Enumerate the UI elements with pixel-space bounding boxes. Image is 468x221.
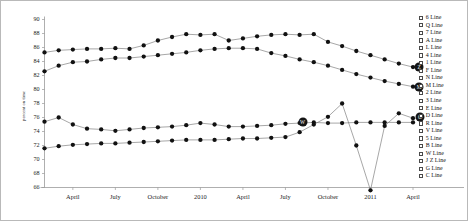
- data-point: [411, 120, 415, 124]
- legend-item-n-line[interactable]: N Line: [419, 74, 468, 82]
- legend-item-w-line[interactable]: W Line: [419, 150, 468, 158]
- data-point: [184, 50, 188, 54]
- checkbox-icon[interactable]: [419, 159, 423, 163]
- checkbox-icon[interactable]: [419, 31, 423, 35]
- y-tick-label: 86: [24, 44, 40, 50]
- checkbox-icon[interactable]: [419, 144, 423, 148]
- data-point: [99, 47, 103, 51]
- legend-panel[interactable]: 6 LineQ Line7 LineA LineL Line4 Line1 Li…: [419, 14, 468, 180]
- legend-item-b-line[interactable]: B Line: [419, 142, 468, 150]
- legend-item-r-line[interactable]: R Line: [419, 120, 468, 128]
- data-point: [326, 115, 330, 119]
- legend-item-label: 6 Line: [426, 14, 442, 22]
- legend-item-e-line[interactable]: E Line: [419, 105, 468, 113]
- data-point: [42, 69, 46, 73]
- data-point: [113, 141, 117, 145]
- data-point: [283, 54, 287, 58]
- data-point: [113, 46, 117, 50]
- checkbox-icon[interactable]: [419, 129, 423, 133]
- checkbox-icon[interactable]: [419, 114, 423, 118]
- x-tick-label: April: [66, 193, 80, 200]
- data-point: [269, 51, 273, 55]
- data-point: [255, 124, 259, 128]
- checkbox-icon[interactable]: [419, 61, 423, 65]
- series-w: [42, 115, 415, 133]
- checkbox-icon[interactable]: [419, 23, 423, 27]
- checkbox-icon[interactable]: [419, 38, 423, 42]
- legend-item-4-line[interactable]: 4 Line: [419, 52, 468, 60]
- data-point: [283, 122, 287, 126]
- data-point: [57, 115, 61, 119]
- checkbox-icon[interactable]: [419, 16, 423, 20]
- data-point: [198, 121, 202, 125]
- legend-item-6-line[interactable]: 6 Line: [419, 14, 468, 22]
- legend-item-3-line[interactable]: 3 Line: [419, 97, 468, 105]
- data-point: [212, 138, 216, 142]
- checkbox-icon[interactable]: [419, 69, 423, 73]
- checkbox-icon[interactable]: [419, 76, 423, 80]
- data-point: [397, 61, 401, 65]
- checkbox-icon[interactable]: [419, 167, 423, 171]
- legend-item-j-z-line[interactable]: J Z Line: [419, 157, 468, 165]
- data-point: [340, 68, 344, 72]
- data-point: [170, 52, 174, 56]
- legend-item-1-line[interactable]: 1 Line: [419, 59, 468, 67]
- legend-item-label: G Line: [426, 165, 443, 173]
- legend-item-label: 5 Line: [426, 135, 442, 143]
- x-tick-label: April: [406, 193, 420, 200]
- legend-item-a-line[interactable]: A Line: [419, 37, 468, 45]
- legend-item-label: F Line: [426, 67, 442, 75]
- legend-item-g-line[interactable]: G Line: [419, 165, 468, 173]
- y-tick-label: 90: [24, 16, 40, 22]
- series-line: [45, 48, 414, 86]
- checkbox-icon[interactable]: [419, 152, 423, 156]
- legend-item-2-line[interactable]: 2 Line: [419, 89, 468, 97]
- checkbox-icon[interactable]: [419, 174, 423, 178]
- data-point: [354, 49, 358, 53]
- series-z: [42, 32, 415, 69]
- checkbox-icon[interactable]: [419, 106, 423, 110]
- data-point: [127, 56, 131, 60]
- data-point: [227, 46, 231, 50]
- data-point: [85, 142, 89, 146]
- legend-item-7-line[interactable]: 7 Line: [419, 29, 468, 37]
- legend-item-c-line[interactable]: C Line: [419, 172, 468, 180]
- y-tick-label: 76: [24, 114, 40, 120]
- chart-screenshot: percent on time 908886848280787674727068…: [0, 0, 468, 221]
- y-tick-label: 82: [24, 72, 40, 78]
- data-point: [42, 50, 46, 54]
- data-point: [198, 33, 202, 37]
- data-point: [255, 34, 259, 38]
- legend-item-5-line[interactable]: 5 Line: [419, 135, 468, 143]
- checkbox-icon[interactable]: [419, 99, 423, 103]
- checkbox-icon[interactable]: [419, 53, 423, 57]
- data-point: [368, 53, 372, 57]
- checkbox-icon[interactable]: [419, 84, 423, 88]
- y-tick-label: 84: [24, 58, 40, 64]
- data-point: [42, 146, 46, 150]
- legend-item-l-line[interactable]: L Line: [419, 44, 468, 52]
- series-g: [42, 101, 415, 192]
- legend-item-label: C Line: [426, 172, 443, 180]
- checkbox-icon[interactable]: [419, 91, 423, 95]
- legend-item-f-line[interactable]: F Line: [419, 67, 468, 75]
- y-tick-label: 70: [24, 156, 40, 162]
- legend-item-v-line[interactable]: V Line: [419, 127, 468, 135]
- legend-item-d-line[interactable]: D Line: [419, 112, 468, 120]
- data-point: [170, 35, 174, 39]
- data-point: [297, 33, 301, 37]
- data-point: [297, 57, 301, 61]
- checkbox-icon[interactable]: [419, 46, 423, 50]
- legend-item-m-line[interactable]: M Line: [419, 82, 468, 90]
- legend-item-q-line[interactable]: Q Line: [419, 22, 468, 30]
- series-m: [42, 46, 415, 89]
- y-tick-label: 68: [24, 170, 40, 176]
- data-point: [368, 120, 372, 124]
- y-tick-label: 74: [24, 128, 40, 134]
- data-point: [71, 143, 75, 147]
- data-point: [383, 79, 387, 83]
- data-point: [340, 44, 344, 48]
- checkbox-icon[interactable]: [419, 121, 423, 125]
- y-tick-label: 80: [24, 86, 40, 92]
- checkbox-icon[interactable]: [419, 136, 423, 140]
